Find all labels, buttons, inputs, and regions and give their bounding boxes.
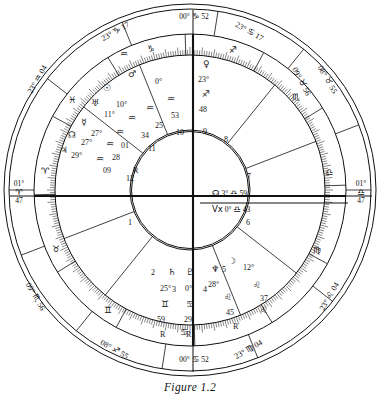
sign-glyph-aries: ♈	[41, 166, 49, 176]
planet-uranus-glyph: ♅	[91, 99, 99, 108]
mercury-retrograde-marker: R	[133, 166, 138, 175]
planet-sun-minute: 25	[155, 122, 163, 130]
sign-glyph-virgo: ♍	[313, 245, 321, 255]
planet-neptune-sign: ♌	[224, 293, 232, 302]
moon-icon: ☽	[228, 256, 236, 266]
planet-mars-glyph: ♂	[128, 70, 136, 79]
node-axis-readout: ☊ 3° ♎ 59	[212, 189, 247, 198]
vertex-sign-glyph: ♎	[233, 204, 241, 214]
neptune-degree: 28°	[208, 280, 219, 289]
pluto-sign-glyph: ♋	[186, 299, 194, 309]
node-minute-chart: 28	[112, 153, 120, 162]
planet-sun-degree: 10°	[116, 101, 127, 109]
planet-venus-minute: 48	[199, 106, 207, 114]
node-degree: 3°	[221, 189, 228, 198]
jupiter-sign-glyph: ♒	[96, 154, 104, 164]
planet-sun-glyph: ☉	[103, 84, 111, 93]
sun-icon: ☉	[103, 83, 111, 93]
mercury-minute: 01	[121, 141, 129, 150]
planet-moon-minute: 37	[260, 295, 268, 303]
mars-minute: 53	[171, 111, 179, 120]
sign-glyph-capricorn: ♑	[147, 44, 155, 54]
venus-icon: ♀	[203, 59, 210, 69]
planet-mercury-sign: ♒	[116, 128, 124, 137]
moon-sign-glyph: ♌	[253, 280, 261, 290]
planet-mercury-minute: 01	[121, 142, 129, 150]
mars-icon: ♂	[128, 69, 136, 79]
planet-venus-glyph: ♀	[203, 60, 210, 69]
venus-sign-glyph: ♐	[202, 89, 210, 99]
sun-degree: 10°	[116, 100, 127, 109]
figure-caption: Figure 1.2	[0, 381, 380, 393]
mars-degree: 0°	[155, 77, 162, 86]
house-number-9: 9	[203, 127, 207, 136]
planet-pluto-glyph: ♇	[186, 268, 194, 277]
mars-sign-glyph: ♒	[167, 94, 175, 104]
planet-pluto-degree: 0°	[185, 285, 192, 293]
asc-label: 01° ♈ 47	[2, 180, 36, 205]
planet-mars-minute: 53	[171, 112, 179, 120]
planet-neptune-glyph: ♆	[211, 265, 219, 274]
planet-moon-glyph: ☽	[228, 257, 236, 266]
dsc-label: 01° ♎ 47	[344, 180, 378, 205]
house-number-12: 12	[126, 174, 134, 183]
planet-mars-sign: ♒	[167, 95, 175, 104]
sign-glyph-taurus: ♉	[52, 244, 60, 254]
planet-sun-sign: ♒	[146, 104, 154, 113]
planet-venus-degree: 23°	[198, 76, 209, 84]
planet-neptune-minute: 45	[226, 309, 234, 317]
sun-minute: 25	[155, 121, 163, 130]
pluto-retrograde-marker: R	[186, 330, 191, 339]
neptune-sign-glyph: ♌	[224, 292, 232, 302]
venus-degree: 23°	[198, 75, 209, 84]
planet-saturn-minute: 59	[157, 316, 165, 324]
saturn-sign-glyph: ♊	[161, 299, 169, 309]
venus-minute: 48	[199, 105, 207, 114]
ic-minute: 52	[201, 355, 209, 364]
planet-moon-sign: ♌	[253, 281, 261, 290]
planet-jupiter-minute: 09	[103, 167, 111, 175]
planet-jupiter-glyph: ♃	[60, 146, 68, 155]
moon-minute: 37	[260, 294, 268, 303]
sun-sign-glyph: ♒	[146, 103, 154, 113]
planet-moon-degree: 12°	[243, 264, 254, 272]
saturn-retrograde-marker: R	[160, 330, 165, 339]
horoscope-figure: 01° ♈ 47 01° ♎ 47 00° ♑ 52 00° ♋ 52 ☊ 3°…	[0, 0, 380, 407]
neptune-minute: 45	[226, 308, 234, 317]
vertex-degree: 0°	[225, 205, 232, 214]
planet-pluto-minute: 29	[184, 316, 192, 324]
sign-glyph-scorpio: ♏	[292, 92, 300, 102]
pluto-minute: 29	[184, 315, 192, 324]
pluto-icon: ♇	[186, 267, 194, 277]
planet-jupiter-degree: 29°	[71, 152, 82, 160]
planet-uranus-minute: 34	[141, 132, 149, 140]
vertex-axis-readout: Vx 0° ♎ 43	[212, 205, 250, 214]
planet-venus-sign: ♐	[202, 90, 210, 99]
ic-degree: 00°	[179, 355, 190, 364]
ic-sign-glyph: ♋	[192, 354, 200, 364]
planet-node-glyph: ☊	[68, 131, 76, 140]
planet-node-minute: 28	[112, 154, 120, 162]
planet-node-degree: 27°	[81, 139, 92, 147]
house-number-6: 6	[246, 218, 250, 227]
pluto-degree: 0°	[185, 284, 192, 293]
saturn-degree: 25°	[160, 284, 171, 293]
sign-glyph-pisces: ♓	[68, 95, 76, 105]
planet-neptune-degree: 28°	[208, 281, 219, 289]
moon-degree: 12°	[243, 263, 254, 272]
sign-glyph-sagittarius: ♐	[229, 45, 237, 55]
ic-label: 00° ♋ 52	[157, 355, 231, 364]
node-minute: 59	[240, 189, 248, 198]
mercury-degree: 27°	[91, 129, 102, 138]
mc-label: 00° ♑ 52	[157, 12, 231, 21]
house-number-1: 1	[128, 218, 132, 227]
house-number-5: 5	[222, 265, 226, 274]
mc-degree: 00°	[179, 12, 190, 21]
node-degree-chart: 27°	[81, 138, 92, 147]
house-number-2: 2	[151, 268, 155, 277]
planet-uranus-sign: ♒	[128, 114, 136, 123]
mc-minute: 52	[201, 12, 209, 21]
planet-uranus-degree: 11°	[104, 111, 115, 119]
planet-saturn-glyph: ♄	[168, 268, 176, 277]
vertex-minute: 43	[243, 205, 251, 214]
